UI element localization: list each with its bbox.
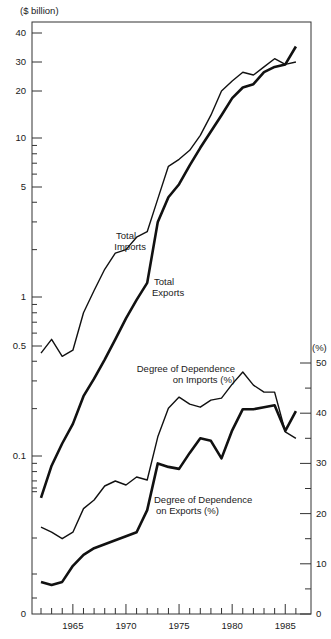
dependence-imports-label-line2: on Imports (%) [131,374,235,385]
x-tick-label: 1975 [164,620,194,631]
dependence-imports-label-line1: Degree of Dependence [131,363,235,374]
exports-label-line2: Exports [152,287,184,298]
right-tick-label: 30 [316,457,327,468]
chart-canvas [0,0,331,639]
total-exports-line [41,47,296,498]
exports-label-line1: Total [152,276,184,287]
dependence-exports-label: Degree of Dependence on Exports (%) [154,494,252,516]
right-tick-label: 50 [316,357,327,368]
left-tick-label: 0 [0,608,26,619]
x-tick-label: 1965 [58,620,88,631]
right-axis-unit-label: (%) [312,342,327,353]
left-tick-label: 0.5 [0,340,26,351]
dependence-exports-label-line1: Degree of Dependence [154,494,252,505]
left-tick-label: 5 [0,181,26,192]
right-tick-label: 10 [316,558,327,569]
left-axis-ticks [32,33,42,598]
total-imports-line [41,59,296,357]
right-tick-label: 40 [316,407,327,418]
imports-label-line1: Total [106,230,146,241]
right-tick-label: 20 [316,508,327,519]
imports-label-line2: Imports [106,241,146,252]
x-tick-label: 1980 [217,620,247,631]
left-tick-label: 30 [0,56,26,67]
plot-frame [32,22,311,614]
left-tick-label: 10 [0,132,26,143]
exports-label: Total Exports [152,276,184,298]
imports-label: Total Imports [106,230,146,252]
left-tick-label: 1 [0,291,26,302]
left-axis-unit-label: ($ billion) [20,5,59,16]
x-tick-label: 1985 [270,620,300,631]
left-tick-label: 0.1 [0,450,26,461]
left-tick-label: 20 [0,85,26,96]
right-tick-label: 0 [316,608,321,619]
left-tick-label: 40 [0,27,26,38]
right-axis-ticks [300,363,311,614]
dependence-imports-label: Degree of Dependence on Imports (%) [131,363,235,385]
x-axis-ticks [41,604,296,614]
dependence-exports-label-line2: on Exports (%) [154,505,252,516]
x-tick-label: 1970 [111,620,141,631]
